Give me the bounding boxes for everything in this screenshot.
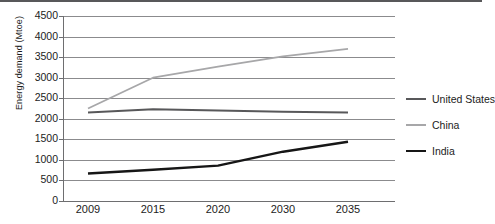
series-line xyxy=(88,109,348,112)
legend-line-icon xyxy=(406,150,426,153)
chart-legend: United StatesChinaIndia xyxy=(406,86,482,164)
legend-item: India xyxy=(406,138,482,164)
legend-label: China xyxy=(432,119,459,131)
legend-item: China xyxy=(406,112,482,138)
legend-line-icon xyxy=(406,124,426,126)
series-line xyxy=(88,142,348,174)
legend-item: United States xyxy=(406,86,482,112)
legend-label: India xyxy=(432,145,455,157)
series-line xyxy=(88,49,348,109)
legend-label: United States xyxy=(432,93,495,105)
legend-line-icon xyxy=(406,98,426,100)
